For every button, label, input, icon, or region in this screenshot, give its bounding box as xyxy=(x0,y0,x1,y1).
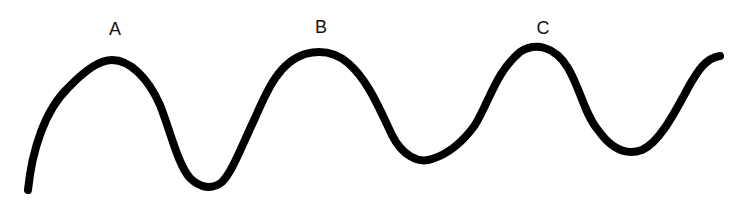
peak-label-c: C xyxy=(537,19,550,37)
wave-diagram: A B C xyxy=(0,0,755,217)
peak-label-a: A xyxy=(109,20,121,38)
peak-label-b: B xyxy=(315,18,327,36)
